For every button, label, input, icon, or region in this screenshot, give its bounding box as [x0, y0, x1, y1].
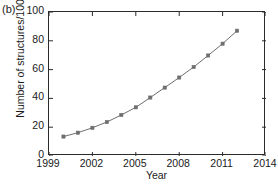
x-axis-tick-labels: 199920022005200820112014 — [0, 0, 278, 185]
x-tick-label: 2008 — [158, 157, 198, 169]
x-tick-label: 1999 — [28, 157, 68, 169]
x-axis-label: Year — [48, 169, 265, 181]
x-tick-label: 2002 — [71, 157, 111, 169]
x-tick-label: 2011 — [202, 157, 242, 169]
x-tick-label: 2014 — [245, 157, 278, 169]
figure-panel-b: (b) 020406080100 Number of structures/10… — [0, 0, 278, 185]
x-tick-label: 2005 — [115, 157, 155, 169]
